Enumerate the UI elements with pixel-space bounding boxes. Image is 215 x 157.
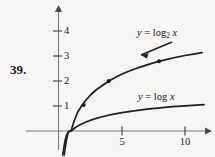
curve-label-log2: y = log2 x: [137, 28, 177, 39]
graph-canvas: [0, 0, 215, 157]
curve-label-log2-base: 2: [166, 32, 170, 40]
curve-label-log10-arg: x: [170, 91, 175, 102]
y-tick-marks: [53, 31, 62, 106]
figure-container: 39.: [0, 0, 215, 157]
data-point-marker: [107, 79, 111, 83]
log2-label-leader-line: [141, 42, 172, 58]
data-point-marker: [157, 59, 161, 63]
y-tick-label-1: 1: [64, 101, 69, 112]
x-axis-arrow-icon: [205, 127, 212, 134]
curve-label-log2-arg: x: [172, 27, 177, 38]
data-point-marker: [82, 103, 86, 107]
y-tick-label-2: 2: [64, 76, 69, 87]
x-tick-label-10: 10: [177, 137, 193, 148]
x-tick-label-5: 5: [114, 137, 130, 148]
curve-label-log10-fn: log: [154, 91, 167, 102]
y-tick-label-4: 4: [64, 26, 69, 37]
y-axis-arrow-icon: [55, 5, 62, 12]
curve-label-log2-fn: log: [153, 27, 166, 38]
y-tick-label-3: 3: [64, 51, 69, 62]
curve-label-log10: y = log x: [138, 92, 175, 103]
